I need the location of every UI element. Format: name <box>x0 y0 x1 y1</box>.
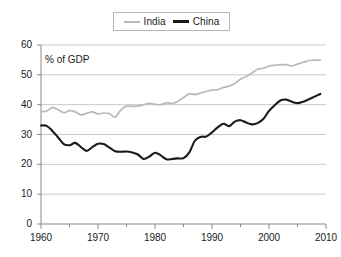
y-tick-label: 10 <box>12 189 32 199</box>
y-tick-label: 50 <box>12 70 32 80</box>
series-line-china <box>41 94 320 160</box>
x-tick-label: 1990 <box>197 233 227 243</box>
chart-figure: India China % of GDP 0102030405060 19601… <box>0 0 341 257</box>
x-tick-label: 2000 <box>254 233 284 243</box>
plot-canvas <box>0 0 341 257</box>
x-tick-label: 1960 <box>26 233 56 243</box>
x-tick-label: 1980 <box>140 233 170 243</box>
y-tick-label: 0 <box>12 219 32 229</box>
tick-marks-group <box>37 45 326 229</box>
series-line-india <box>41 60 320 117</box>
y-tick-label: 40 <box>12 100 32 110</box>
y-tick-label: 30 <box>12 130 32 140</box>
y-tick-label: 60 <box>12 40 32 50</box>
x-tick-label: 1970 <box>83 233 113 243</box>
y-tick-label: 20 <box>12 159 32 169</box>
gridlines-group <box>41 45 326 224</box>
x-tick-label: 2010 <box>311 233 341 243</box>
